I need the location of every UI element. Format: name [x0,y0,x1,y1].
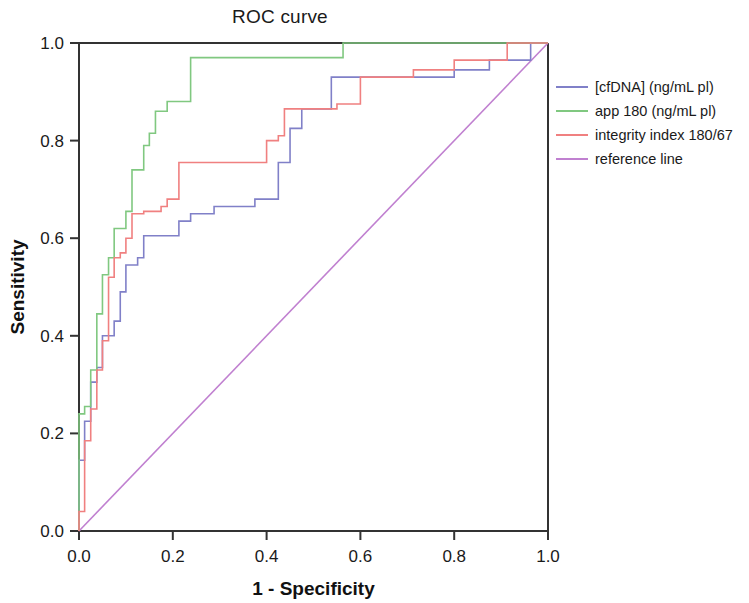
y-tick-label: 0.4 [40,327,64,346]
y-tick-label: 0.0 [40,522,64,541]
legend-item: integrity index 180/67 [556,124,746,146]
axis-labels-group: 1 - SpecificitySensitivity [7,239,375,599]
y-axis-title: Sensitivity [7,239,28,334]
legend-item-label: app 180 (ng/mL pl) [595,103,716,119]
roc-curve-3 [79,43,548,531]
curves-group [79,43,548,531]
legend-color-swatch [556,134,588,136]
x-tick-label: 0.6 [349,547,373,566]
x-tick-label: 1.0 [536,547,560,566]
x-tick-label: 0.8 [442,547,466,566]
x-axis-title: 1 - Specificity [252,578,375,599]
legend-item: [cfDNA] (ng/mL pl) [556,76,746,98]
roc-chart-figure: ROC curve 0.00.20.40.60.81.00.00.20.40.6… [0,0,749,603]
y-tick-label: 0.6 [40,229,64,248]
x-tick-label: 0.2 [161,547,185,566]
x-tick-label: 0.4 [255,547,279,566]
legend-color-swatch [556,110,588,112]
legend-item: reference line [556,148,746,170]
x-tick-label: 0.0 [67,547,91,566]
legend-item-label: integrity index 180/67 [595,127,733,143]
chart-legend: [cfDNA] (ng/mL pl)app 180 (ng/mL pl)inte… [556,76,746,172]
legend-color-swatch [556,86,588,88]
legend-item-label: [cfDNA] (ng/mL pl) [595,79,714,95]
legend-color-swatch [556,158,588,160]
legend-item-label: reference line [595,151,683,167]
y-tick-label: 1.0 [40,34,64,53]
y-tick-label: 0.8 [40,132,64,151]
legend-item: app 180 (ng/mL pl) [556,100,746,122]
y-tick-label: 0.2 [40,424,64,443]
